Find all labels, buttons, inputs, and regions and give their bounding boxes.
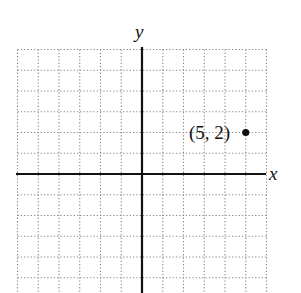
point-label: (5, 2) bbox=[189, 122, 230, 144]
x-axis-label: x bbox=[268, 163, 278, 184]
coordinate-plane: y x (5, 2) bbox=[0, 0, 301, 293]
data-point bbox=[242, 129, 249, 136]
y-axis-label: y bbox=[133, 21, 144, 42]
